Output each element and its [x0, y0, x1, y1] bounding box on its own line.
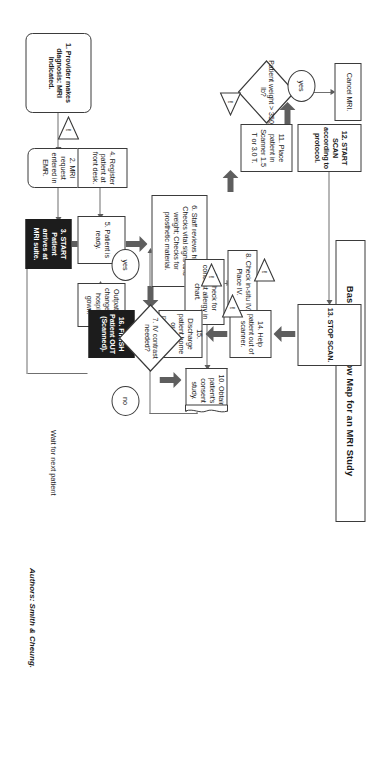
- loop-label-wait-next-patient: Wait for next patient: [48, 430, 57, 495]
- warning-icon-step-11-glyph: !: [219, 92, 241, 116]
- warning-icon-step-9-glyph: !: [221, 294, 243, 318]
- connector-4-to-5: [99, 186, 100, 216]
- block-arrow-10-to-11: [222, 170, 238, 192]
- warning-icon-step-9[interactable]: !: [221, 294, 243, 318]
- warning-icon-step-6-glyph: !: [200, 263, 222, 287]
- decision-iv-contrast[interactable]: 7. IV contrast needed?: [118, 304, 182, 372]
- branch-label-yes-weight: yes: [287, 70, 315, 102]
- warning-icon-step-1-glyph: !: [57, 116, 79, 140]
- diagram-title: Basic Process Flow Map for an MRI Study: [335, 240, 365, 522]
- step-3-start-patient-arrives[interactable]: 3. START Patient arrives at MRI suite.: [25, 219, 71, 269]
- warning-icon-step-8-glyph: !: [253, 258, 275, 282]
- branch-label-no-contrast: no: [111, 386, 139, 416]
- step-13-stop-scan[interactable]: 13. STOP SCAN.: [297, 304, 361, 366]
- authors-credit: Authors: Smith & Cheung.: [27, 568, 36, 668]
- decision-patient-weight[interactable]: Patient weight > 350 lb?: [237, 60, 295, 124]
- flowchart-sheet: Basic Process Flow Map for an MRI Study …: [0, 0, 387, 766]
- block-arrow-d7-to-10: [159, 372, 181, 388]
- connector-16-feedback-h: [26, 253, 27, 374]
- warning-icon-step-11[interactable]: !: [219, 92, 241, 116]
- warning-icon-step-6[interactable]: !: [200, 263, 222, 287]
- connector-2-to-3: [57, 186, 58, 219]
- branch-label-yes-contrast: yes: [111, 249, 139, 281]
- connector-12-to-13: [328, 172, 329, 302]
- warning-icon-step-1[interactable]: !: [57, 116, 79, 140]
- warning-icon-step-8[interactable]: !: [253, 258, 275, 282]
- block-arrow-14-to-15: [205, 326, 227, 342]
- connector-16-feedback-v: [27, 373, 87, 374]
- document-shape-edge: [185, 405, 227, 415]
- step-11-place-in-scanner[interactable]: 11. Place patient in Scanner 1.5 T or 3.…: [240, 124, 292, 172]
- step-12-start-scan[interactable]: 12. START SCAN according to protocol.: [297, 124, 361, 172]
- cancel-mri[interactable]: Cancel MRI.: [334, 63, 361, 121]
- block-arrow-13-to-14: [273, 326, 295, 342]
- step-4-register-front-desk[interactable]: 4. Register patient at front desk.: [77, 148, 127, 188]
- step-1-provider-diagnosis[interactable]: 1. Provider makes diagnosis: MRI Indicat…: [25, 33, 91, 113]
